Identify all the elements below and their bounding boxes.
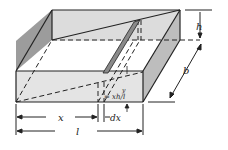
dimension-l (17, 104, 143, 135)
wedge-diagram: h b y = xh/l x dx l (0, 0, 228, 150)
label-b: b (183, 65, 189, 76)
label-y-expression: = xh/l (104, 93, 125, 101)
label-x: x (58, 112, 64, 123)
label-dx: dx (110, 113, 121, 123)
dimension-x (16, 104, 98, 135)
label-h: h (196, 21, 202, 32)
label-l: l (76, 126, 79, 137)
